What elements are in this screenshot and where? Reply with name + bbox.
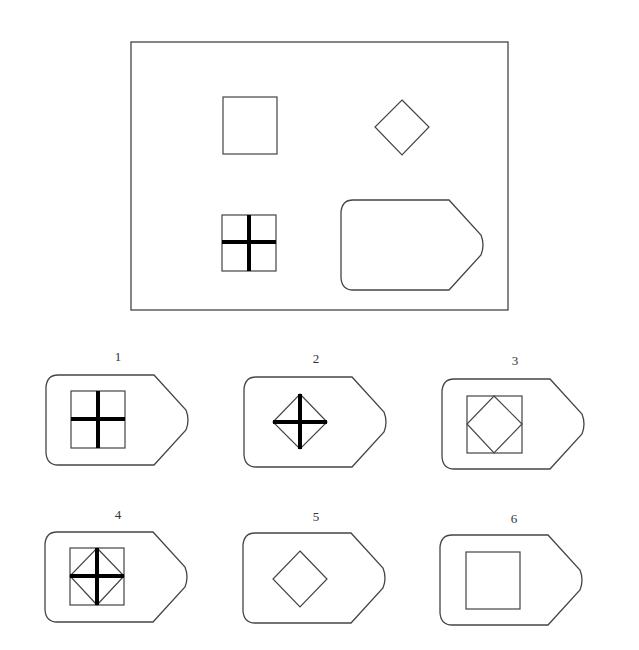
option-5-label: 5: [313, 509, 320, 525]
cell-tag: [341, 200, 483, 290]
option-1-label: 1: [115, 349, 122, 365]
option-6[interactable]: [440, 535, 582, 625]
option-2-label: 2: [313, 351, 320, 367]
question-frame: [131, 42, 508, 310]
option-3-label: 3: [512, 353, 519, 369]
cell-diamond: [375, 100, 429, 155]
option-6-label: 6: [511, 511, 518, 527]
option-4-label: 4: [115, 507, 122, 523]
question-panel: [131, 42, 508, 310]
option-2[interactable]: [244, 377, 386, 467]
cell-square-with-cross: [222, 215, 276, 271]
option-4[interactable]: [45, 532, 187, 622]
cell-square: [223, 97, 277, 154]
option-3[interactable]: [442, 379, 584, 469]
option-1[interactable]: [46, 375, 188, 465]
option-5[interactable]: [243, 533, 385, 623]
puzzle-canvas: [0, 0, 639, 650]
